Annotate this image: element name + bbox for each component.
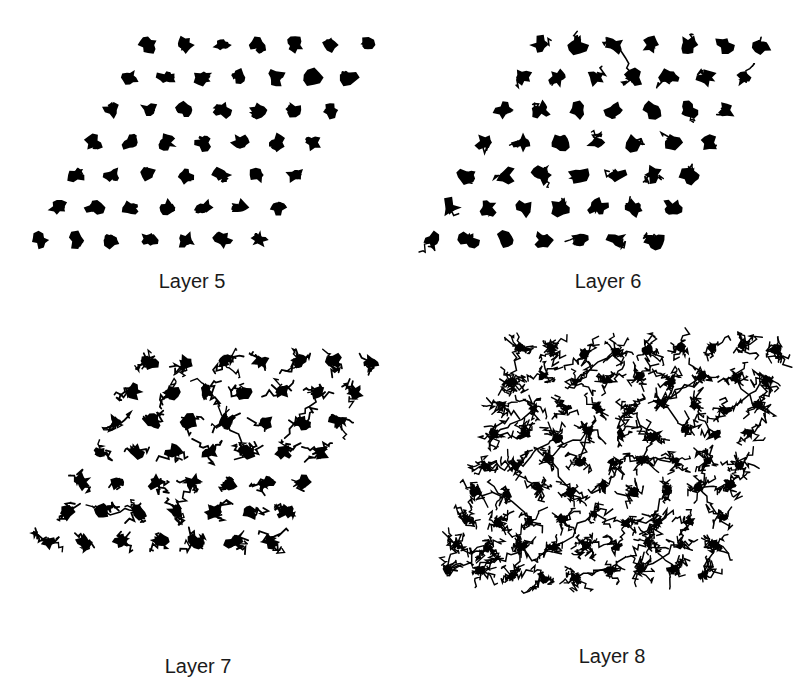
layer-8-caption: Layer 8 <box>512 645 712 668</box>
figure-canvas <box>0 0 794 699</box>
layer-8-pattern <box>440 328 792 593</box>
layer-6-caption: Layer 6 <box>508 270 708 293</box>
layer-5-caption: Layer 5 <box>92 270 292 293</box>
layer-7-caption: Layer 7 <box>98 655 298 678</box>
layer-7-pattern <box>32 348 379 554</box>
layer-5-pattern <box>32 36 375 250</box>
figure: Layer 5Layer 6Layer 7Layer 8 <box>0 0 794 699</box>
layer-6-pattern <box>419 31 771 252</box>
